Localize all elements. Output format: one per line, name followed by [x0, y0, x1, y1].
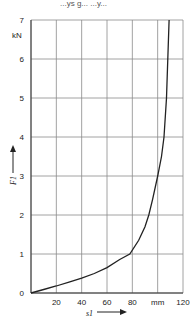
- header-fragment: ...ys g... ...y...: [60, 0, 107, 8]
- y-tick-labels: 01234567: [20, 16, 25, 298]
- y-tick-label: 1: [20, 250, 25, 259]
- y-tick-label: 6: [20, 55, 25, 64]
- x-tick-label: 120: [176, 298, 190, 307]
- y-tick-label: 3: [20, 172, 25, 181]
- x-tick-labels: 20406080mm120: [52, 298, 190, 307]
- x-tick-label: mm: [151, 298, 165, 307]
- y-tick-label: 7: [20, 16, 25, 25]
- y-unit-label: kN: [12, 31, 22, 40]
- svg-text:s1: s1: [86, 309, 93, 318]
- y-tick-label: 5: [20, 94, 25, 103]
- x-axis-label: s1: [86, 309, 127, 318]
- y-tick-label: 4: [20, 133, 25, 142]
- grid: [31, 20, 183, 293]
- x-tick-label: 80: [128, 298, 137, 307]
- x-tick-label: 20: [52, 298, 61, 307]
- data-curve: [31, 20, 169, 293]
- right-arrow-head-icon: [120, 309, 127, 315]
- x-tick-label: 60: [103, 298, 112, 307]
- up-arrow-head-icon: [10, 145, 16, 152]
- y-tick-label: 2: [20, 211, 25, 220]
- y-axis-label: F1: [9, 145, 18, 186]
- y-tick-label: 0: [20, 289, 25, 298]
- force-displacement-chart: ...ys g... ...y... 01234567 20406080mm12…: [0, 0, 196, 323]
- x-tick-label: 40: [77, 298, 86, 307]
- svg-text:F1: F1: [9, 176, 18, 186]
